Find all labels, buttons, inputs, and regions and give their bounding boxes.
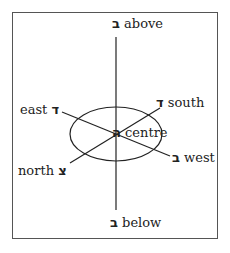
label-below-text: below: [122, 215, 161, 230]
label-above: ב above: [112, 17, 163, 30]
hebrew-letter-centre: ה: [112, 125, 121, 140]
label-west: ב west: [172, 151, 215, 164]
label-centre-text: centre: [125, 125, 167, 140]
label-east-text: east: [20, 102, 47, 117]
label-north-text: north: [18, 163, 54, 178]
hebrew-letter-west: ב: [172, 150, 180, 165]
hebrew-letter-above: ב: [112, 16, 120, 31]
label-above-text: above: [124, 16, 163, 31]
hebrew-letter-north: צ: [58, 163, 67, 178]
label-centre: ה centre: [112, 126, 168, 139]
hebrew-letter-east: ד: [51, 102, 59, 117]
label-south-text: south: [168, 95, 204, 110]
hebrew-letter-below: ב: [110, 215, 118, 230]
label-north: north צ: [18, 164, 67, 177]
label-below: ב below: [110, 216, 161, 229]
label-west-text: west: [184, 150, 215, 165]
hebrew-letter-south: ד: [156, 95, 164, 110]
label-south: ד south: [156, 96, 204, 109]
label-east: east ד: [20, 103, 59, 116]
